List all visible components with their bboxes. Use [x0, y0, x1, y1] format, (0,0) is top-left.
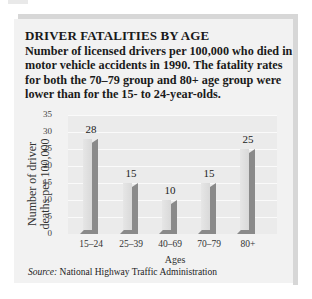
x-tick-label: 15–24: [71, 239, 111, 249]
y-tick-label: 0: [36, 228, 52, 238]
chart-title: DRIVER FATALITIES BY AGE: [25, 28, 209, 44]
x-axis-label: Ages: [155, 254, 195, 265]
bar-80-: [240, 149, 255, 234]
page-mark: [8, 0, 28, 4]
source-text: National Highway Traffic Administration: [57, 267, 217, 277]
y-tick-label: 30: [36, 126, 52, 136]
source-label: Source:: [28, 267, 57, 277]
bar-side: [132, 183, 138, 234]
bar-front: [162, 200, 171, 230]
bar-front: [123, 183, 132, 230]
card-shadow-right: [293, 14, 298, 285]
bar-front: [240, 149, 249, 230]
source-note: Source: National Highway Traffic Adminis…: [28, 267, 217, 277]
bar-side: [171, 200, 177, 234]
bar-side: [210, 183, 216, 234]
y-tick-label: 25: [36, 143, 52, 153]
y-tick-label: 15: [36, 177, 52, 187]
bar-15-24: [83, 139, 98, 234]
x-tick-label: 70–79: [189, 239, 229, 249]
y-tick-label: 20: [36, 160, 52, 170]
bar-value-label: 25: [233, 133, 263, 145]
bar-value-label: 15: [194, 167, 224, 179]
x-tick-label: 25–39: [111, 239, 151, 249]
y-tick-label: 10: [36, 194, 52, 204]
y-tick-label: 5: [36, 211, 52, 221]
bar-value-label: 28: [76, 123, 106, 135]
bar-side: [92, 139, 98, 234]
bar-40-69: [162, 200, 177, 234]
gridline: [68, 115, 277, 116]
y-tick-label: 35: [36, 109, 52, 119]
chart-card: DRIVER FATALITIES BY AGE Number of licen…: [14, 19, 293, 283]
bar-value-label: 10: [155, 184, 185, 196]
bar-front: [83, 139, 92, 230]
bar-side: [249, 149, 255, 234]
bar-front: [201, 183, 210, 230]
x-tick-label: 40–69: [150, 239, 190, 249]
bar-25-39: [123, 183, 138, 234]
bar-70-79: [201, 183, 216, 234]
bar-value-label: 15: [116, 167, 146, 179]
chart-subtitle: Number of licensed drivers per 100,000 w…: [25, 44, 293, 101]
x-tick-label: 80+: [228, 239, 268, 249]
